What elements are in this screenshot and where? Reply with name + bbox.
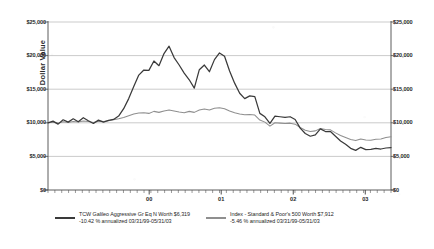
series-line xyxy=(48,108,391,141)
chart-legend: TCW Galileo Aggressive Gr Eq N Worth $6,… xyxy=(55,211,395,235)
legend-series-label: Index - Standard & Poor's 500 Worth $7,9… xyxy=(230,211,334,218)
axes-frame xyxy=(44,21,395,190)
gridlines xyxy=(48,22,391,156)
performance-chart-figure: Dollar Value $0$5,000$10,000$15,000$20,0… xyxy=(0,0,434,249)
x-tick-marks xyxy=(48,190,391,195)
data-series-group xyxy=(48,46,391,150)
legend-text: Index - Standard & Poor's 500 Worth $7,9… xyxy=(230,211,334,225)
legend-series-return: -5.46 % annualized 03/31/99-05/31/03 xyxy=(230,218,334,225)
legend-entry: TCW Galileo Aggressive Gr Eq N Worth $6,… xyxy=(55,211,190,225)
legend-line-swatch-icon xyxy=(55,214,75,222)
legend-series-label: TCW Galileo Aggressive Gr Eq N Worth $6,… xyxy=(79,211,190,218)
legend-line-swatch-icon xyxy=(206,214,226,222)
legend-series-return: -10.42 % annualized 03/31/99-05/31/03 xyxy=(79,218,190,225)
legend-text: TCW Galileo Aggressive Gr Eq N Worth $6,… xyxy=(79,211,190,225)
legend-entry: Index - Standard & Poor's 500 Worth $7,9… xyxy=(206,211,334,225)
y-tick-marks xyxy=(44,22,395,190)
